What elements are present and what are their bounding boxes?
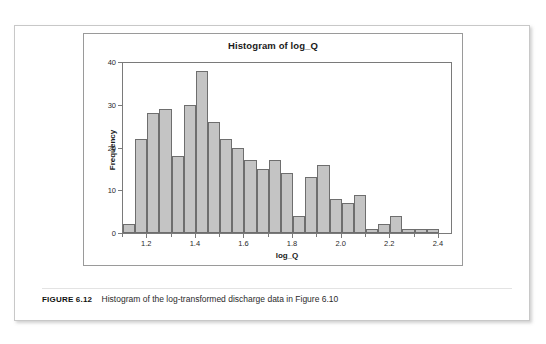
histogram-bar	[232, 148, 244, 234]
figure-panel: Histogram of log_Q 010203040 1.21.41.61.…	[14, 25, 530, 321]
figure-page: Histogram of log_Q 010203040 1.21.41.61.…	[0, 0, 546, 344]
x-tick-mark	[146, 234, 147, 238]
y-tick-label: 0	[112, 229, 116, 238]
histogram-bar	[196, 71, 208, 233]
histogram-bar	[184, 105, 196, 233]
histogram-bar	[378, 224, 390, 233]
histogram-bar	[305, 177, 317, 233]
histogram-bar	[281, 173, 293, 233]
x-tick-mark	[292, 234, 293, 238]
histogram-plot-window: Histogram of log_Q 010203040 1.21.41.61.…	[83, 33, 463, 266]
histogram-bar	[208, 122, 220, 233]
x-tick-mark	[341, 234, 342, 238]
x-tick-label: 2.4	[433, 239, 443, 248]
caption-divider	[42, 288, 512, 289]
y-tick-label: 10	[108, 186, 116, 195]
plot-axes-area: 010203040 1.21.41.61.82.02.22.4 log_Q	[122, 62, 452, 234]
histogram-bar	[342, 203, 354, 233]
x-minor-tick-mark	[171, 234, 172, 237]
y-tick-label: 30	[108, 100, 116, 109]
histogram-bar	[402, 229, 414, 233]
histogram-bar	[366, 229, 378, 233]
x-minor-tick-mark	[414, 234, 415, 237]
x-tick-label: 1.6	[238, 239, 248, 248]
y-tick-mark	[118, 62, 122, 63]
x-tick-mark	[195, 234, 196, 238]
histogram-bar	[330, 199, 342, 233]
x-tick-mark	[438, 234, 439, 238]
histogram-bar	[390, 216, 402, 233]
histogram-bar	[354, 195, 366, 233]
y-axis-title: Frequency	[108, 129, 117, 169]
histogram-bar	[172, 156, 184, 233]
x-tick-label: 1.2	[141, 239, 151, 248]
histogram-bar	[269, 160, 281, 233]
x-tick-label: 2.0	[335, 239, 345, 248]
figure-caption-label: FIGURE 6.12	[42, 295, 92, 304]
histogram-bar	[317, 165, 329, 233]
x-minor-tick-mark	[268, 234, 269, 237]
histogram-bar	[220, 139, 232, 233]
y-tick-mark	[118, 105, 122, 106]
x-minor-tick-mark	[122, 234, 123, 237]
figure-caption-text: Histogram of the log-transformed dischar…	[102, 294, 339, 304]
x-tick-label: 1.8	[287, 239, 297, 248]
chart-title: Histogram of log_Q	[84, 40, 462, 51]
x-axis-title: log_Q	[122, 251, 452, 260]
x-minor-tick-mark	[316, 234, 317, 237]
x-tick-label: 2.2	[384, 239, 394, 248]
histogram-bar	[244, 160, 256, 233]
histogram-bar	[427, 229, 439, 233]
y-tick-label: 40	[108, 58, 116, 67]
histogram-bar	[135, 139, 147, 233]
x-tick-mark	[243, 234, 244, 238]
histogram-bars	[123, 62, 451, 233]
histogram-bar	[257, 169, 269, 233]
y-tick-mark	[118, 148, 122, 149]
histogram-bar	[123, 224, 135, 233]
x-minor-tick-mark	[365, 234, 366, 237]
histogram-bar	[159, 109, 171, 233]
x-minor-tick-mark	[219, 234, 220, 237]
y-tick-mark	[118, 190, 122, 191]
histogram-bar	[147, 113, 159, 233]
x-tick-label: 1.4	[190, 239, 200, 248]
histogram-bar	[293, 216, 305, 233]
histogram-bar	[415, 229, 427, 233]
figure-caption: FIGURE 6.12 Histogram of the log-transfo…	[42, 294, 512, 304]
x-tick-mark	[389, 234, 390, 238]
